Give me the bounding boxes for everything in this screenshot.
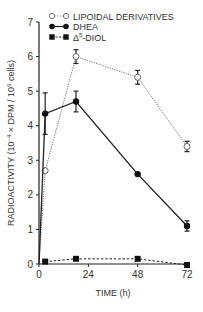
series-filled-square xyxy=(42,256,190,268)
filled-circle-marker-icon xyxy=(49,24,55,30)
y-tick-label: 4 xyxy=(27,120,33,131)
series-filled-circle xyxy=(39,91,190,264)
open-circle-marker-icon xyxy=(63,13,68,18)
y-tick-label: 2 xyxy=(27,189,33,200)
legend-item-dhea: DHEA xyxy=(49,22,98,32)
data-point xyxy=(73,54,79,60)
chart-series xyxy=(39,50,190,268)
legend-label: LIPOIDAL DERIVATIVES xyxy=(73,12,174,22)
y-tick-label: 5 xyxy=(27,86,33,97)
filled-circle-marker-icon xyxy=(63,24,69,30)
filled-square-marker-icon xyxy=(63,34,68,39)
legend-item-diol: Δ5-DIOL xyxy=(49,32,106,43)
x-tick-label: 72 xyxy=(181,269,193,280)
y-tick-label: 7 xyxy=(27,17,33,28)
y-axis-title: RADIOACTIVITY (10−4 × DPM / 106 cells) xyxy=(6,60,17,226)
x-axis-title: TIME (h) xyxy=(96,288,131,298)
filled-square-marker-icon xyxy=(49,34,54,39)
line-chart: 012345670244872 LIPOIDAL DERIVATIVES DHE… xyxy=(0,0,203,312)
data-point xyxy=(73,98,79,104)
legend-label: Δ5-DIOL xyxy=(73,32,106,43)
legend-item-lipoidal: LIPOIDAL DERIVATIVES xyxy=(49,12,173,22)
x-tick-label: 24 xyxy=(83,269,95,280)
data-point xyxy=(42,110,48,116)
series-open-circle xyxy=(39,50,190,264)
data-point xyxy=(42,259,48,265)
data-point xyxy=(184,262,190,268)
data-point xyxy=(134,171,140,177)
chart-axes: 012345670244872 xyxy=(27,17,193,281)
data-point xyxy=(184,143,190,149)
y-tick-label: 0 xyxy=(27,259,33,270)
data-point xyxy=(73,256,79,262)
y-tick-label: 1 xyxy=(27,224,33,235)
y-tick-label: 3 xyxy=(27,155,33,166)
data-point xyxy=(135,74,141,80)
x-tick-label: 48 xyxy=(132,269,144,280)
legend-label: DHEA xyxy=(73,22,98,32)
data-point xyxy=(184,223,190,229)
y-tick-label: 6 xyxy=(27,51,33,62)
chart-legend: LIPOIDAL DERIVATIVES DHEA Δ5-DIOL xyxy=(49,12,174,43)
data-point xyxy=(135,256,141,262)
open-circle-marker-icon xyxy=(49,13,54,18)
x-tick-label: 0 xyxy=(36,269,42,280)
